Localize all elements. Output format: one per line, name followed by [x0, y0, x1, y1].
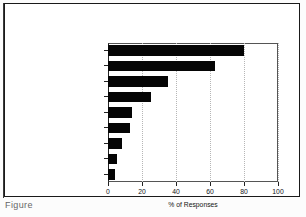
- y-tick-mark: [104, 158, 108, 159]
- bar-row: [108, 105, 278, 120]
- figure-caption: Figure: [5, 200, 33, 212]
- bar: [108, 107, 132, 118]
- bar: [108, 76, 168, 87]
- x-tick-label-100: 100: [272, 188, 283, 195]
- figure-container: Past SalesMkt Res./Comp. Sit.Industry St…: [0, 0, 306, 217]
- bar: [108, 61, 215, 72]
- bar-row: [108, 136, 278, 151]
- bar: [108, 45, 244, 56]
- x-tick-mark-100: [278, 182, 279, 186]
- bar: [108, 154, 117, 165]
- x-tick-mark-20: [142, 182, 143, 186]
- x-tick-label-60: 60: [206, 188, 214, 195]
- gridline-100: [278, 43, 279, 182]
- bar-row: [108, 120, 278, 135]
- bar-row: [108, 167, 278, 182]
- x-tick-mark-0: [108, 182, 109, 186]
- y-tick-mark: [104, 143, 108, 144]
- x-tick-label-80: 80: [240, 188, 248, 195]
- bar-row: [108, 151, 278, 166]
- y-tick-mark: [104, 81, 108, 82]
- bar-row: [108, 89, 278, 104]
- x-tick-mark-40: [176, 182, 177, 186]
- bar-row: [108, 74, 278, 89]
- bar: [108, 169, 115, 180]
- y-tick-mark: [104, 174, 108, 175]
- x-axis-title: % of Responses: [168, 201, 218, 208]
- y-tick-mark: [104, 50, 108, 51]
- bar-row: [108, 58, 278, 73]
- bar: [108, 138, 122, 149]
- plot-area: Past SalesMkt Res./Comp. Sit.Industry St…: [108, 43, 278, 182]
- x-tick-label-20: 20: [138, 188, 146, 195]
- bar: [108, 123, 130, 134]
- x-tick-mark-80: [244, 182, 245, 186]
- y-tick-mark: [104, 127, 108, 128]
- y-tick-mark: [104, 112, 108, 113]
- x-tick-mark-60: [210, 182, 211, 186]
- bar: [108, 92, 151, 103]
- x-tick-label-0: 0: [106, 188, 110, 195]
- figure-frame: Past SalesMkt Res./Comp. Sit.Industry St…: [4, 3, 300, 197]
- y-tick-mark: [104, 96, 108, 97]
- y-tick-mark: [104, 65, 108, 66]
- x-tick-label-40: 40: [172, 188, 180, 195]
- bar-row: [108, 43, 278, 58]
